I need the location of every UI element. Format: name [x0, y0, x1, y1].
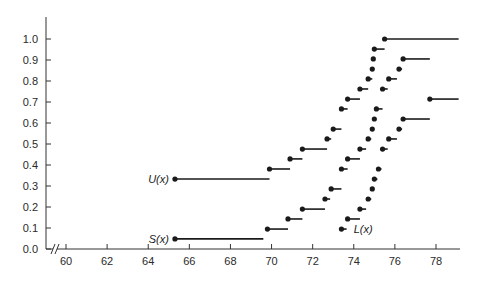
step-point	[329, 186, 334, 191]
step-point	[370, 66, 375, 71]
x-axis-ticks: 60626466687072747678	[60, 244, 442, 267]
step-point	[376, 166, 381, 171]
y-tick-label: 1.0	[23, 33, 38, 45]
y-tick-label: 0.0	[23, 243, 38, 255]
series-layer	[172, 36, 458, 241]
y-tick-label: 0.9	[23, 54, 38, 66]
x-tick-label: 64	[142, 255, 154, 267]
series-label: U(x)	[148, 173, 169, 185]
step-point	[322, 196, 327, 201]
x-tick-label: 66	[183, 255, 195, 267]
step-point	[357, 86, 362, 91]
step-point	[372, 46, 377, 51]
y-tick-label: 0.8	[23, 75, 38, 87]
step-point	[285, 216, 290, 221]
step-point	[370, 126, 375, 131]
x-tick-label: 70	[265, 255, 277, 267]
step-point	[396, 126, 401, 131]
step-point	[382, 36, 387, 41]
x-tick-label: 60	[60, 255, 72, 267]
step-point	[357, 146, 362, 151]
step-point	[357, 207, 362, 212]
step-point	[172, 236, 177, 241]
step-point	[372, 176, 377, 181]
y-tick-label: 0.5	[23, 138, 38, 150]
step-point	[371, 56, 376, 61]
step-point	[300, 146, 305, 151]
step-point	[401, 116, 406, 121]
step-point	[339, 166, 344, 171]
step-point	[372, 116, 377, 121]
step-point	[380, 146, 385, 151]
step-point	[366, 136, 371, 141]
step-point	[345, 96, 350, 101]
step-point	[265, 226, 270, 231]
step-point	[396, 66, 401, 71]
step-point	[300, 207, 305, 212]
series-label: S(x)	[149, 233, 170, 245]
y-tick-label: 0.1	[23, 222, 38, 234]
step-point	[401, 56, 406, 61]
step-point	[386, 136, 391, 141]
step-point	[370, 186, 375, 191]
series-lx	[339, 96, 459, 231]
series-label: L(x)	[354, 223, 373, 235]
x-tick-label: 74	[348, 255, 360, 267]
x-tick-label: 78	[430, 255, 442, 267]
step-point	[345, 216, 350, 221]
x-tick-label: 62	[101, 255, 113, 267]
y-axis-ticks: 0.00.10.20.30.40.50.60.70.80.91.0	[23, 33, 51, 255]
y-tick-label: 0.4	[23, 159, 38, 171]
axes	[46, 17, 460, 254]
step-point	[374, 106, 379, 111]
step-function-chart: 60626466687072747678 0.00.10.20.30.40.50…	[0, 0, 485, 283]
series-labels: U(x)S(x)L(x)	[148, 173, 373, 245]
step-point	[339, 226, 344, 231]
x-tick-label: 72	[307, 255, 319, 267]
step-point	[380, 86, 385, 91]
y-tick-label: 0.7	[23, 96, 38, 108]
step-point	[386, 76, 391, 81]
step-point	[324, 136, 329, 141]
step-point	[339, 106, 344, 111]
step-point	[366, 196, 371, 201]
x-tick-label: 68	[224, 255, 236, 267]
step-point	[366, 76, 371, 81]
y-tick-label: 0.6	[23, 117, 38, 129]
step-point	[172, 176, 177, 181]
step-point	[287, 156, 292, 161]
x-tick-label: 76	[389, 255, 401, 267]
y-tick-label: 0.3	[23, 180, 38, 192]
step-point	[427, 96, 432, 101]
step-point	[345, 156, 350, 161]
step-point	[267, 166, 272, 171]
step-point	[331, 126, 336, 131]
y-tick-label: 0.2	[23, 201, 38, 213]
